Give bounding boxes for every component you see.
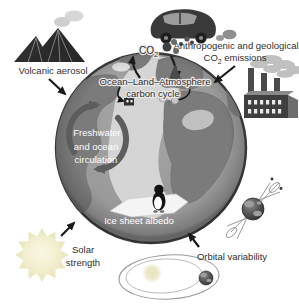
volcanic-aerosol-label: Volcanic aerosol xyxy=(18,65,87,76)
precession-earth-icon xyxy=(242,198,264,220)
diagram-canvas: Volcanic aerosol Anthropogenic and geolo… xyxy=(0,0,299,306)
star-dot xyxy=(280,187,283,190)
solar-strength-label-line1: Solar xyxy=(72,244,94,255)
star-dot xyxy=(271,178,274,181)
co2-text: CO xyxy=(204,52,218,63)
orbit-sun-icon xyxy=(142,263,162,283)
arrow-emissions-to-globe xyxy=(215,66,235,82)
orbital-variability-label: Orbital variability xyxy=(197,251,267,262)
freshwater-label-line3: circulation xyxy=(75,154,118,165)
solar-strength-label-line2: strength xyxy=(66,257,100,268)
exhaust-smoke-icon xyxy=(223,30,237,40)
carbon-cycle-label-line2: carbon cycle xyxy=(126,88,179,99)
emissions-text: emissions xyxy=(224,52,266,63)
car-icon xyxy=(151,9,237,43)
orbiting-earth-icon xyxy=(199,271,213,285)
anthropogenic-emissions-label-line1: Anthropogenic and geological xyxy=(173,40,298,51)
anthropogenic-emissions-label-line2: CO2emissions xyxy=(204,52,267,65)
co2-text: CO xyxy=(139,45,154,56)
co2-subscript: 2 xyxy=(218,58,222,65)
carbon-cycle-label-line1: Ocean–Land–Atmosphere xyxy=(100,76,211,87)
co2-subscript: 2 xyxy=(154,50,158,59)
arrow-orbital-to-globe xyxy=(189,234,199,247)
freshwater-label-line1: Freshwater xyxy=(73,127,121,138)
volcano-smoke-icon xyxy=(65,11,84,22)
factory-icon xyxy=(244,55,299,118)
freshwater-label-line2: and ocean xyxy=(74,141,118,152)
arrow-sun-to-globe xyxy=(61,223,74,236)
climate-diagram: Volcanic aerosol Anthropogenic and geolo… xyxy=(0,0,299,306)
volcano-icon xyxy=(14,11,85,63)
arrow-volcano-to-globe xyxy=(49,79,65,94)
sun-icon xyxy=(15,228,69,282)
ice-sheet-albedo-label: Ice sheet albedo xyxy=(104,215,174,226)
